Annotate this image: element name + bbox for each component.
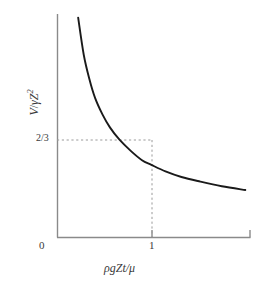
y-axis-title-numerator: V xyxy=(27,108,41,115)
figure-container: 2/3 0 1 ρgZt/μ V/γZ2 xyxy=(0,0,273,286)
y-axis-title-exponent: 2 xyxy=(26,89,35,93)
x-axis-title: ρgZt/μ xyxy=(104,262,135,274)
x-tick-label-zero: 0 xyxy=(39,240,45,251)
y-axis-title: V/γZ2 xyxy=(27,74,40,132)
x-tick-label-one: 1 xyxy=(149,240,155,251)
y-axis-title-denominator: γZ xyxy=(27,94,41,105)
data-curve xyxy=(78,18,245,190)
y-tick-label-two-thirds: 2/3 xyxy=(36,133,49,143)
y-axis-title-slash: / xyxy=(27,105,41,108)
